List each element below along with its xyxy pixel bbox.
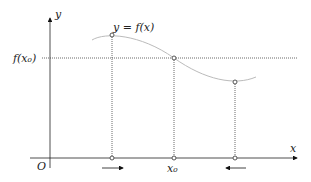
x0-label: x₀ bbox=[167, 162, 178, 175]
curve-label: y = f(x) bbox=[112, 21, 154, 34]
level-label: f(x₀) bbox=[12, 52, 36, 65]
y-label: y bbox=[54, 8, 62, 21]
diagram: y x O y = f(x) f(x₀) x₀ bbox=[0, 0, 311, 182]
origin-label: O bbox=[37, 160, 46, 173]
x-label: x bbox=[290, 142, 297, 155]
points bbox=[110, 33, 237, 160]
